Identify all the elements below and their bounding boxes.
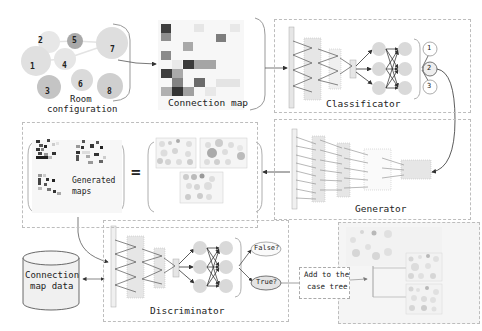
case-tree-panel: [338, 222, 480, 324]
class-output-1: 1: [427, 44, 431, 52]
room-label-5: 5: [72, 36, 77, 45]
add-to-case-tree-line2: case tree: [307, 282, 348, 291]
generated-maps-label-line1: Generated: [72, 176, 115, 185]
room-label-6: 6: [78, 80, 83, 89]
arrow-room-to-map: [118, 60, 156, 64]
connection-map-label: Connection map: [168, 97, 248, 108]
classificator-label: Classificator: [326, 98, 400, 109]
discriminator-label: Discriminator: [150, 305, 224, 316]
bracket-right-map: [250, 18, 265, 110]
room-label-4: 4: [62, 61, 67, 70]
add-to-case-tree-line1: Add to the: [304, 270, 349, 279]
database-label-line2: map data: [30, 281, 73, 291]
generator-label: Generator: [355, 203, 406, 214]
generated-maps-label-line2: maps: [72, 187, 91, 196]
class-output-3: 3: [427, 82, 431, 90]
room-label-3: 3: [45, 87, 50, 96]
room-label-8: 8: [107, 87, 112, 96]
room-label-1: 1: [30, 62, 35, 71]
class-output-2: 2: [427, 64, 431, 72]
output-true: True?: [256, 278, 277, 286]
database-label-line1: Connection: [25, 270, 79, 280]
room-configuration-label-line1: Room: [70, 94, 92, 104]
room-label-2: 2: [38, 36, 43, 45]
equals-sign: =: [131, 162, 141, 181]
output-false: False?: [254, 244, 279, 252]
room-label-7: 7: [110, 45, 115, 54]
room-configuration-label-line2: configuration: [47, 104, 117, 114]
